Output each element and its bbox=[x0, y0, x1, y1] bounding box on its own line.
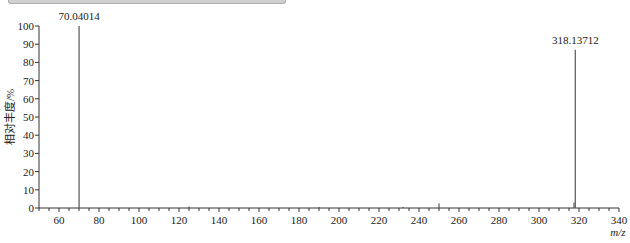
y-tick-label: 60 bbox=[23, 93, 35, 105]
x-tick-label: 240 bbox=[411, 214, 428, 226]
x-tick-label: 100 bbox=[131, 214, 148, 226]
y-tick-label: 50 bbox=[23, 111, 35, 123]
y-tick-label: 100 bbox=[18, 20, 35, 32]
x-tick-label: 300 bbox=[531, 214, 548, 226]
x-tick-label: 280 bbox=[491, 214, 508, 226]
x-tick-label: 180 bbox=[291, 214, 308, 226]
x-tick-label: 260 bbox=[451, 214, 468, 226]
x-tick-label: 140 bbox=[211, 214, 228, 226]
x-axis-label: m/z bbox=[610, 226, 626, 238]
x-tick-label: 340 bbox=[611, 214, 628, 226]
y-tick-label: 0 bbox=[29, 202, 35, 214]
y-tick-label: 40 bbox=[23, 129, 35, 141]
mass-spectrum-chart: 0102030405060708090100608010012014016018… bbox=[0, 0, 630, 243]
y-axis-label: 相对丰度/% bbox=[3, 89, 16, 145]
x-tick-label: 220 bbox=[371, 214, 388, 226]
y-tick-label: 20 bbox=[23, 166, 35, 178]
y-tick-label: 10 bbox=[23, 184, 35, 196]
x-tick-label: 200 bbox=[331, 214, 348, 226]
x-tick-label: 160 bbox=[251, 214, 268, 226]
x-tick-label: 120 bbox=[171, 214, 188, 226]
x-tick-label: 80 bbox=[94, 214, 106, 226]
peak-label: 318.13712 bbox=[552, 34, 599, 46]
y-tick-label: 90 bbox=[23, 38, 35, 50]
x-tick-label: 60 bbox=[54, 214, 66, 226]
y-tick-label: 30 bbox=[23, 147, 35, 159]
y-tick-label: 80 bbox=[23, 56, 35, 68]
x-tick-label: 320 bbox=[571, 214, 588, 226]
y-tick-label: 70 bbox=[23, 75, 35, 87]
peak-label: 70.04014 bbox=[58, 10, 100, 22]
